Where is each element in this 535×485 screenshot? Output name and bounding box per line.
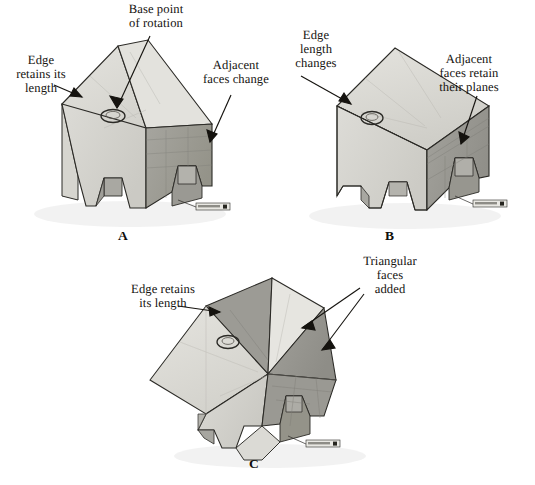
- callout-base-point-of-rotation: Base point of rotation: [108, 2, 204, 30]
- callout-edge-retains-its-length: Edge retains its length: [2, 53, 80, 95]
- figure-panel-b: Edge length changes Adjacent faces retai…: [265, 0, 535, 252]
- callout-edge-retains-its-length: Edge retains its length: [107, 282, 219, 310]
- callout-triangular-faces-added: Triangular faces added: [342, 254, 438, 296]
- figure-panel-c: Edge retains its length Triangular faces…: [110, 250, 430, 485]
- figure-label-c: C: [249, 456, 259, 472]
- figure-panel-a: Base point of rotation Edge retains its …: [0, 0, 270, 252]
- viewport-tag-b: [455, 196, 507, 207]
- callout-adjacent-faces-retain-their-planes: Adjacent faces retain their planes: [413, 52, 525, 94]
- figure-label-a: A: [118, 228, 128, 244]
- callout-adjacent-faces-change: Adjacent faces change: [196, 58, 276, 86]
- callout-edge-length-changes: Edge length changes: [279, 28, 353, 70]
- figure-label-b: B: [385, 228, 394, 244]
- figure-sheet: Base point of rotation Edge retains its …: [0, 0, 535, 485]
- figure-a-drawing: [0, 0, 270, 252]
